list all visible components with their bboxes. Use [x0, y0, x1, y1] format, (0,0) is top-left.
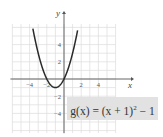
x-tick-label: −4	[26, 81, 34, 88]
equation-suffix: − 1	[137, 105, 155, 117]
y-axis-label: y	[55, 8, 60, 18]
y-axis-arrow-icon	[62, 11, 66, 14]
y-tick-label: 2	[58, 58, 61, 65]
equation-prefix: g(x) = (x + 1)	[70, 105, 133, 117]
function-label-box: g(x) = (x + 1)2 − 1	[67, 97, 158, 120]
x-axis-label: x	[127, 80, 132, 90]
y-tick-label: −2	[54, 93, 61, 100]
x-tick-label: 4	[97, 81, 101, 88]
y-tick-label: −4	[54, 110, 62, 117]
x-tick-label: 2	[80, 81, 83, 88]
